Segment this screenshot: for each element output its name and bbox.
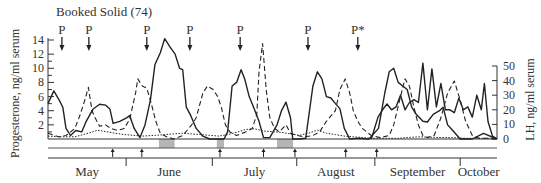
event-arrowhead-icon [111, 149, 115, 153]
shaded-period [277, 139, 293, 148]
p-marker-label: P [237, 22, 244, 37]
plot-area: 246810121401020304050MayJuneJulyAugustSe… [32, 22, 515, 179]
p-marker-arrowhead-icon [355, 45, 360, 51]
shaded-period [217, 139, 224, 148]
left-axis-tick-label: 4 [38, 104, 44, 118]
p-marker-arrowhead-icon [86, 45, 91, 51]
left-axis-tick-label: 2 [38, 118, 44, 132]
p-marker-label: P* [351, 22, 365, 37]
right-axis-tick-label: 10 [503, 117, 515, 131]
p-marker-label: P [58, 22, 65, 37]
event-arrowhead-icon [375, 149, 379, 153]
left-axis-tick-label: 14 [32, 33, 44, 47]
event-arrowhead-icon [218, 149, 222, 153]
p-marker-arrowhead-icon [144, 45, 149, 51]
p-marker-label: P [304, 22, 311, 37]
left-axis-tick-label: 12 [32, 47, 44, 61]
month-label: August [317, 164, 355, 179]
right-axis-tick-label: 30 [503, 88, 515, 102]
right-axis-tick-label: 40 [503, 74, 515, 88]
p-marker-label: P [143, 22, 150, 37]
series-line-lh-surge- [371, 63, 497, 139]
p-marker-arrowhead-icon [187, 45, 192, 51]
right-axis-tick-label: 0 [503, 132, 509, 146]
month-label: July [244, 164, 266, 179]
p-marker-arrowhead-icon [238, 45, 243, 51]
chart-title: Booked Solid (74) [56, 4, 152, 20]
right-axis-label: LH, ng/ml serum [523, 40, 538, 160]
month-label: October [458, 164, 501, 179]
event-arrowhead-icon [140, 149, 144, 153]
month-label: June [157, 164, 181, 179]
month-label: May [75, 164, 99, 179]
left-axis-tick-label: 6 [38, 90, 44, 104]
left-axis-tick-label: 10 [32, 61, 44, 75]
p-marker-label: P [186, 22, 193, 37]
p-marker-label: P [85, 22, 92, 37]
right-axis-tick-label: 20 [503, 103, 515, 117]
shaded-period [159, 139, 175, 148]
month-label: September [390, 164, 446, 179]
left-axis-tick-label: 8 [38, 75, 44, 89]
hormone-chart: 246810121401020304050MayJuneJulyAugustSe… [0, 0, 541, 183]
right-axis-tick-label: 50 [503, 59, 515, 73]
p-marker-arrowhead-icon [305, 45, 310, 51]
event-arrowhead-icon [262, 149, 266, 153]
event-arrowhead-icon [344, 149, 348, 153]
left-axis-label: Progesterone, ng/ml serum [8, 19, 23, 169]
p-marker-arrowhead-icon [59, 45, 64, 51]
event-arrowhead-icon [293, 149, 297, 153]
